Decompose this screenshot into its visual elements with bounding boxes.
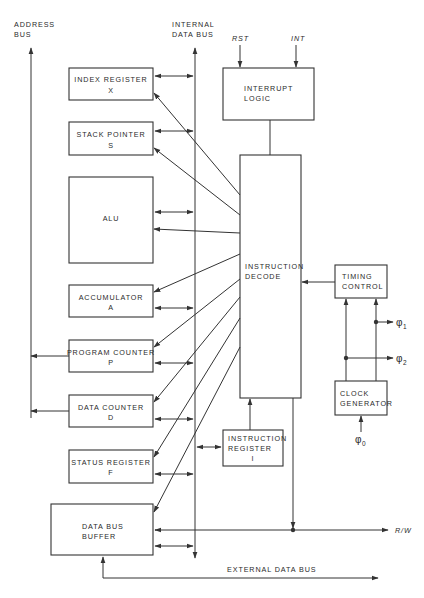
stack-pointer-block: STACK POINTER S	[69, 122, 153, 155]
external-data-bus: EXTERNAL DATA BUS	[103, 557, 378, 578]
cpu-block-diagram: ADDRESS BUS INTERNAL DATA BUS INDEX REGI…	[0, 0, 424, 598]
internal-bus-label-2: DATA BUS	[172, 30, 214, 39]
ctl-alu	[154, 229, 240, 233]
instruction-register-label-2: REGISTER	[228, 444, 272, 453]
data-bus-buffer-label-2: BUFFER	[82, 532, 116, 541]
instruction-register-label-1: INSTRUCTION	[228, 434, 287, 443]
data-bus-buffer-block: DATA BUS BUFFER	[51, 504, 153, 555]
instruction-decode-label-1: INSTRUCTION	[245, 262, 304, 271]
ctl-acc	[154, 254, 240, 292]
interrupt-logic-label-1: INTERRUPT	[244, 84, 293, 93]
index-register-label: INDEX REGISTER	[74, 75, 147, 84]
status-register-block: STATUS REGISTER F	[69, 450, 153, 483]
phi2-sub: 2	[403, 359, 408, 366]
clock-generator-block: CLOCK GENERATOR φ 1 φ 2 φ 0	[335, 299, 408, 447]
data-bus-buffer-label-1: DATA BUS	[82, 522, 124, 531]
address-bus: ADDRESS BUS	[14, 20, 69, 418]
instruction-register-block: INSTRUCTION REGISTER I	[223, 399, 287, 466]
internal-bus-label-1: INTERNAL	[172, 20, 215, 29]
external-bus-label: EXTERNAL DATA BUS	[227, 565, 316, 574]
address-bus-label-2: BUS	[14, 30, 31, 39]
alu-block: ALU	[69, 177, 153, 263]
stack-pointer-label: STACK POINTER	[76, 130, 145, 139]
rw-label: R/W	[395, 526, 412, 535]
int-signal-label: INT	[291, 34, 305, 43]
rst-signal-label: RST	[232, 34, 249, 43]
status-register-symbol: F	[108, 468, 113, 477]
timing-control-label-2: CONTROL	[342, 282, 383, 291]
alu-label: ALU	[103, 214, 120, 223]
interrupt-logic-label-2: LOGIC	[244, 94, 271, 103]
timing-control-label-1: TIMING	[342, 272, 373, 281]
data-counter-symbol: D	[108, 413, 114, 422]
status-register-label: STATUS REGISTER	[71, 458, 151, 467]
instruction-register-symbol: I	[252, 454, 255, 463]
interrupt-logic-block: RST INT INTERRUPT LOGIC	[223, 34, 314, 155]
ctl-stack	[154, 148, 240, 215]
clock-generator-label-1: CLOCK	[340, 389, 369, 398]
timing-control-block: TIMING CONTROL	[302, 265, 387, 298]
program-counter-symbol: P	[108, 358, 114, 367]
stack-pointer-symbol: S	[108, 141, 114, 150]
program-counter-block: PROGRAM COUNTER P	[67, 340, 155, 372]
address-bus-label-1: ADDRESS	[14, 20, 55, 29]
instruction-decode-block: INSTRUCTION DECODE	[240, 155, 304, 398]
rw-junction	[291, 528, 295, 532]
data-counter-label: DATA COUNTER	[78, 403, 144, 412]
accumulator-label: ACCUMULATOR	[79, 293, 144, 302]
instruction-decode-label-2: DECODE	[245, 272, 281, 281]
clock-generator-label-2: GENERATOR	[340, 399, 393, 408]
accumulator-symbol: A	[108, 303, 114, 312]
program-counter-label: PROGRAM COUNTER	[67, 348, 155, 357]
index-register-symbol: X	[108, 86, 114, 95]
phi1-sub: 1	[403, 323, 408, 330]
index-register-block: INDEX REGISTER X	[69, 68, 153, 100]
phi0-sub: 0	[362, 440, 367, 447]
accumulator-block: ACCUMULATOR A	[69, 285, 153, 317]
data-counter-block: DATA COUNTER D	[69, 395, 153, 427]
internal-data-bus: INTERNAL DATA BUS	[155, 20, 221, 558]
